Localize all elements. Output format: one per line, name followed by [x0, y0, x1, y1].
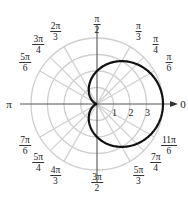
angle-label-denominator: 3 [53, 176, 58, 186]
angle-label-numerator: π [135, 22, 142, 32]
radial-tick-label: 3 [145, 107, 150, 118]
angle-label: 5π3 [133, 166, 145, 186]
angle-label-numerator: π [165, 53, 172, 63]
angle-label-numerator: 3π [91, 173, 103, 183]
angle-label-denominator: 4 [36, 163, 41, 173]
angle-label-numerator: 11π [161, 136, 177, 146]
angle-label: 7π4 [150, 153, 162, 173]
angle-label-denominator: 3 [136, 176, 141, 186]
angle-label-denominator: 4 [153, 163, 158, 173]
angle-label: 3π2 [91, 173, 103, 193]
polar-axis-arrow-icon [170, 101, 178, 107]
angle-label: 7π6 [19, 136, 31, 156]
angle-label-denominator: 6 [166, 146, 171, 156]
angle-label: 2π3 [50, 22, 62, 42]
angle-label-denominator: 4 [153, 45, 158, 55]
angle-label: π6 [165, 53, 172, 73]
angle-label-numerator: 7π [150, 153, 162, 163]
angle-label-numerator: 3π [33, 35, 45, 45]
angle-label: π3 [135, 22, 142, 42]
angle-label: π4 [152, 35, 159, 55]
angle-label: π [6, 98, 12, 110]
angle-label-denominator: 3 [53, 32, 58, 42]
angle-label-numerator: 2π [50, 22, 62, 32]
radial-tick-label: 2 [129, 107, 134, 118]
angle-label-numerator: 4π [50, 166, 62, 176]
radial-tick-label: 1 [112, 107, 117, 118]
angle-label-numerator: 7π [19, 136, 31, 146]
angle-label-numerator: 5π [33, 153, 45, 163]
angle-label-denominator: 4 [36, 45, 41, 55]
angle-label: 5π6 [19, 53, 31, 73]
angle-label-denominator: 6 [166, 63, 171, 73]
angle-label-denominator: 2 [95, 183, 100, 193]
angle-label-denominator: 3 [136, 32, 141, 42]
angle-label-denominator: 6 [23, 63, 28, 73]
angle-label: 5π4 [33, 153, 45, 173]
angle-label-denominator: 6 [23, 146, 28, 156]
angle-label: π2 [94, 15, 101, 35]
angle-label-numerator: π [94, 15, 101, 25]
angle-label: 3π4 [33, 35, 45, 55]
angle-label-numerator: 5π [133, 166, 145, 176]
angle-label: 11π6 [161, 136, 177, 156]
angle-label: 0 [180, 98, 186, 110]
angle-label-denominator: 2 [95, 25, 100, 35]
angle-label-numerator: 5π [19, 53, 31, 63]
angle-label: 4π3 [50, 166, 62, 186]
angle-label-numerator: π [152, 35, 159, 45]
